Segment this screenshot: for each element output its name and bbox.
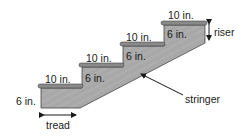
- stringer-callout: stringer: [185, 94, 220, 105]
- tread-callout: tread: [46, 120, 70, 131]
- stringer-pointer: [141, 74, 183, 95]
- riser-label-1: 6 in.: [16, 96, 36, 107]
- riser-callout: riser: [214, 27, 234, 38]
- tread-label-1: 10 in.: [45, 74, 71, 85]
- riser-label-4: 6 in.: [167, 29, 187, 40]
- riser-label-3: 6 in.: [126, 51, 146, 62]
- tread-label-4: 10 in.: [168, 10, 194, 21]
- tread-plate-4: [161, 21, 207, 25]
- tread-label-2: 10 in.: [86, 53, 112, 64]
- riser-label-2: 6 in.: [85, 73, 105, 84]
- tread-label-3: 10 in.: [126, 32, 152, 43]
- staircase-diagram: [0, 0, 249, 136]
